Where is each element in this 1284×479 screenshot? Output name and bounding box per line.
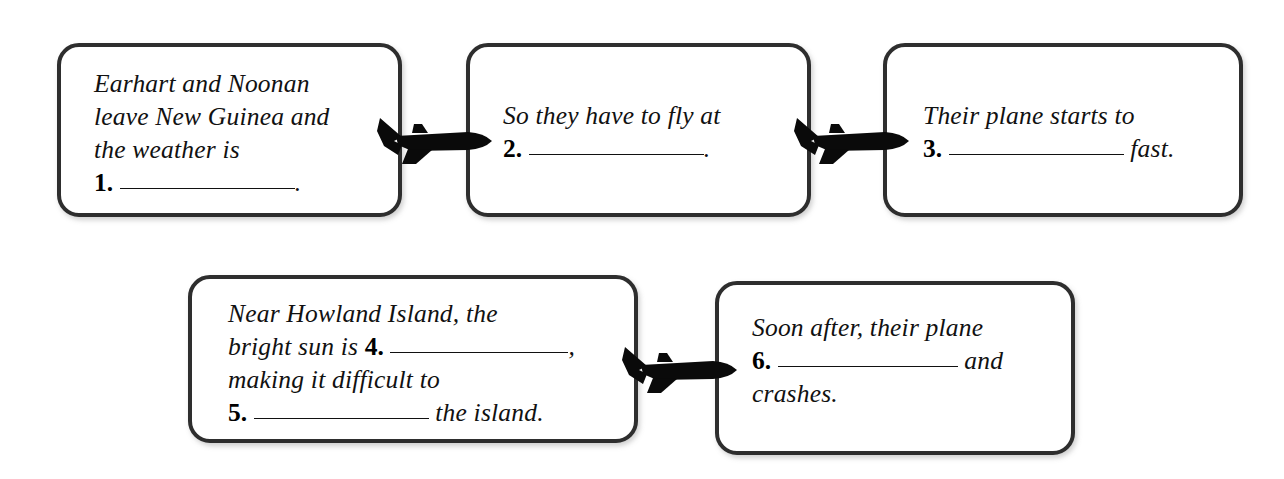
box-3-content: Their plane starts to 3. fast. [887,99,1239,165]
blank-number-2: 2. [503,134,522,163]
blank-3-suffix: fast. [1124,134,1175,163]
blank-4-suffix: , [568,332,575,361]
blank-4-prefix: bright sun is [228,332,365,361]
box-1-line-3: the weather is [94,133,398,166]
box-1-line-4: 1. . [94,166,398,199]
blank-number-3: 3. [923,134,942,163]
flowchart-box-6: Soon after, their plane 6. and crashes. [715,281,1075,455]
worksheet-sheet: Earhart and Noonan leave New Guinea and … [0,0,1284,479]
answer-blank-2[interactable] [529,154,704,155]
box-4-5-line-3: making it difficult to [228,363,634,396]
blank-number-6: 6. [752,346,771,375]
box-3-line-1: Their plane starts to [923,99,1239,132]
answer-blank-1[interactable] [120,188,295,189]
answer-blank-4[interactable] [390,352,568,353]
box-2-line-1: So they have to fly at [503,99,807,132]
box-6-line-3: crashes. [752,377,1071,410]
blank-number-1: 1. [94,168,113,197]
answer-blank-5[interactable] [254,418,429,419]
flowchart-box-2: So they have to fly at 2. . [466,43,811,217]
box-4-5-content: Near Howland Island, the bright sun is 4… [192,297,634,429]
box-2-content: So they have to fly at 2. . [470,99,807,165]
box-1-line-1: Earhart and Noonan [94,67,398,100]
blank-1-suffix: . [295,168,302,197]
box-3-line-2: 3. fast. [923,132,1239,165]
box-1-line-2: leave New Guinea and [94,100,398,133]
flowchart-box-1: Earhart and Noonan leave New Guinea and … [57,43,402,217]
box-6-line-1: Soon after, their plane [752,311,1071,344]
box-1-content: Earhart and Noonan leave New Guinea and … [61,67,398,199]
box-4-5-line-4: 5. the island. [228,396,634,429]
answer-blank-3[interactable] [949,154,1124,155]
box-4-5-line-1: Near Howland Island, the [228,297,634,330]
box-6-line-2: 6. and [752,344,1071,377]
box-4-5-line-2: bright sun is 4. , [228,330,634,363]
blank-number-5: 5. [228,398,247,427]
flowchart-box-4-5: Near Howland Island, the bright sun is 4… [188,275,638,443]
airplane-icon [789,112,914,172]
answer-blank-6[interactable] [778,366,958,367]
blank-6-suffix: and [958,346,1003,375]
airplane-icon [617,341,742,401]
flowchart-box-3: Their plane starts to 3. fast. [883,43,1243,217]
airplane-icon [372,112,497,172]
box-6-content: Soon after, their plane 6. and crashes. [719,311,1071,410]
blank-5-suffix: the island. [429,398,544,427]
box-2-line-2: 2. . [503,132,807,165]
blank-2-suffix: . [704,134,711,163]
blank-number-4: 4. [365,332,384,361]
